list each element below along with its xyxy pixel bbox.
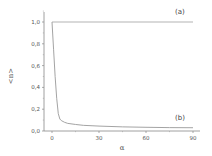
y-tick-label: 0,6 — [31, 63, 40, 69]
y-axis-label: <n> — [7, 68, 15, 84]
chart: 0,00,20,40,60,81,00306090 α<n>(a)(b) — [0, 0, 212, 156]
curve-label-a: (a) — [175, 8, 185, 16]
series-line-b — [52, 22, 193, 128]
x-axis-label: α — [120, 144, 125, 152]
curve-label-b: (b) — [175, 114, 185, 122]
series-group — [52, 22, 193, 128]
x-tick-label: 90 — [190, 135, 197, 141]
y-tick-label: 0,4 — [31, 84, 40, 90]
y-tick-label: 0,2 — [31, 106, 40, 112]
x-tick-label: 0 — [50, 135, 54, 141]
y-tick-label: 0,0 — [31, 128, 40, 134]
x-tick-label: 30 — [96, 135, 103, 141]
y-tick-label: 1,0 — [31, 19, 40, 25]
x-tick-label: 60 — [143, 135, 150, 141]
y-tick-label: 0,8 — [31, 41, 40, 47]
